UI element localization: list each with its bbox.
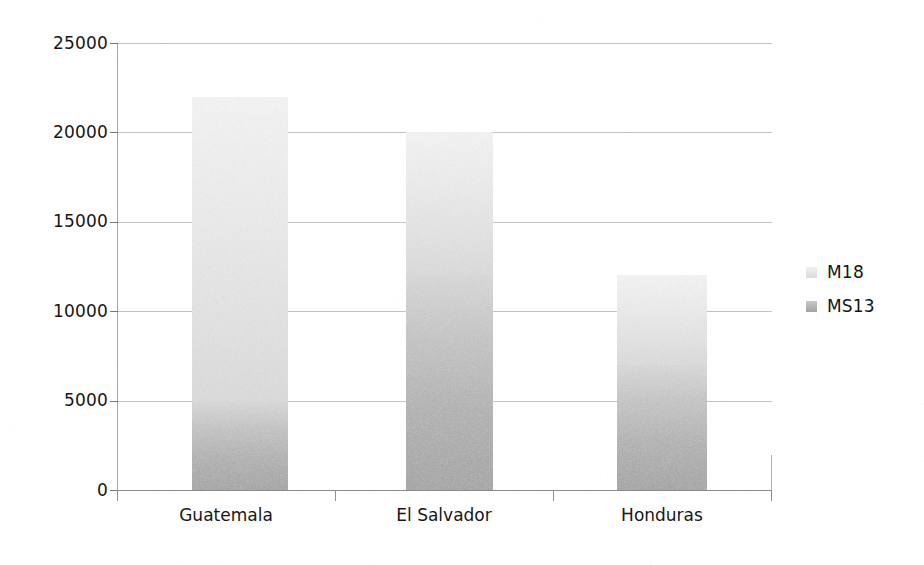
y-tick-label-5000: 5000 xyxy=(64,390,108,410)
legend-label-ms13: MS13 xyxy=(827,296,875,316)
bar-segment-honduras-ms13[interactable] xyxy=(617,365,707,490)
x-separator-tick-left xyxy=(117,490,118,501)
bar-group-guatemala[interactable] xyxy=(192,97,288,490)
gridline-0-baseline xyxy=(117,490,772,491)
y-tick-mark-5000 xyxy=(110,401,118,402)
stacked-bar-chart: 25000 20000 15000 10000 5000 0 xyxy=(0,0,924,565)
y-tick-mark-10000 xyxy=(110,311,118,312)
bar-segment-guatemala-ms13[interactable] xyxy=(192,401,288,490)
bar-group-honduras[interactable] xyxy=(617,275,707,490)
x-tick-label-el-salvador: El Salvador xyxy=(372,505,516,525)
bar-segment-honduras-m18[interactable] xyxy=(617,275,707,364)
y-tick-label-25000: 25000 xyxy=(53,33,108,53)
y-tick-mark-20000 xyxy=(110,132,118,133)
bar-segment-el-salvador-ms13[interactable] xyxy=(406,275,493,490)
legend-label-m18: M18 xyxy=(827,262,864,282)
y-tick-mark-15000 xyxy=(110,222,118,223)
ms13-swatch-icon xyxy=(806,301,817,312)
m18-swatch-icon xyxy=(806,267,817,278)
y-tick-label-15000: 15000 xyxy=(53,211,108,231)
y-tick-label-20000: 20000 xyxy=(53,122,108,142)
y-axis-tick-labels: 25000 20000 15000 10000 5000 0 xyxy=(0,0,108,565)
bar-group-el-salvador[interactable] xyxy=(406,132,493,490)
x-tick-label-honduras: Honduras xyxy=(590,505,734,525)
bar-segment-el-salvador-m18[interactable] xyxy=(406,132,493,275)
x-separator-tick-2 xyxy=(553,490,554,501)
plot-area xyxy=(117,43,772,490)
gridline-25000 xyxy=(117,43,772,44)
x-separator-tick-right xyxy=(771,490,772,501)
y-tick-label-10000: 10000 xyxy=(53,301,108,321)
x-axis-tick-labels: Guatemala El Salvador Honduras xyxy=(117,505,772,541)
x-separator-tick-1 xyxy=(335,490,336,501)
legend-item-ms13[interactable]: MS13 xyxy=(806,289,918,323)
y-tick-label-0: 0 xyxy=(97,480,108,500)
bar-segment-guatemala-m18[interactable] xyxy=(192,97,288,401)
x-tick-label-guatemala: Guatemala xyxy=(154,505,298,525)
chart-legend: M18 MS13 xyxy=(806,255,918,323)
legend-item-m18[interactable]: M18 xyxy=(806,255,918,289)
y-tick-mark-25000 xyxy=(110,43,118,44)
